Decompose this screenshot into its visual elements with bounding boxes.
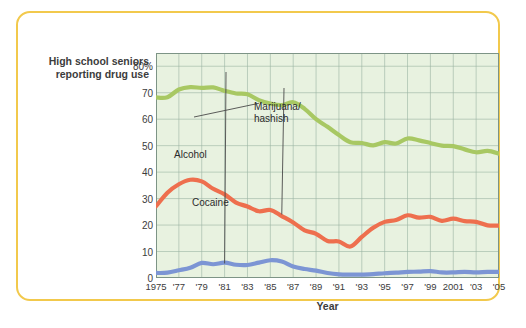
- y-tick-label: 30: [142, 193, 153, 204]
- x-tick-label: 2001: [443, 281, 464, 292]
- x-tick-label: '79: [196, 281, 208, 292]
- x-tick-label: '89: [310, 281, 322, 292]
- x-tick-label: '83: [241, 281, 253, 292]
- x-tick-label: '95: [378, 281, 390, 292]
- series-line-0: [156, 87, 499, 153]
- x-tick-label: '93: [356, 281, 368, 292]
- x-tick-label: '05: [493, 281, 505, 292]
- y-tick-label: 60: [142, 114, 153, 125]
- x-tick-label: '03: [470, 281, 482, 292]
- x-tick-label: '87: [287, 281, 299, 292]
- x-tick-label: '81: [218, 281, 230, 292]
- plot-wrapper: AlcoholMarijuana/ hashishCocaine: [156, 53, 499, 278]
- x-tick-label: '91: [333, 281, 345, 292]
- series-annotation-alcohol: Alcohol: [174, 149, 207, 161]
- y-tick-label: 70: [142, 87, 153, 98]
- y-tick-label: 40: [142, 167, 153, 178]
- series-annotation-cocaine: Cocaine: [192, 197, 229, 209]
- x-axis-title: Year: [156, 300, 499, 312]
- figure-card: High school seniors reporting drug use 0…: [16, 11, 500, 301]
- x-tick-label: '99: [424, 281, 436, 292]
- annotation-leader-0: [194, 103, 259, 117]
- y-tick-label: 50: [142, 140, 153, 151]
- x-tick-label: '97: [401, 281, 413, 292]
- x-tick-label: 1975: [145, 281, 166, 292]
- chart-svg: [156, 53, 499, 278]
- series-annotation-marijuanahashish: Marijuana/ hashish: [254, 101, 301, 125]
- x-tick-label: '85: [264, 281, 276, 292]
- x-axis-tick-labels: 1975'77'79'81'83'85'87'89'91'93'95'97'99…: [156, 281, 499, 295]
- y-tick-label: 80%: [133, 61, 153, 72]
- x-tick-label: '77: [173, 281, 185, 292]
- y-tick-label: 10: [142, 246, 153, 257]
- series-line-2: [156, 260, 499, 274]
- y-tick-label: 20: [142, 220, 153, 231]
- series-line-1: [156, 180, 499, 247]
- y-axis-tick-labels: 01020304050607080%: [117, 53, 153, 278]
